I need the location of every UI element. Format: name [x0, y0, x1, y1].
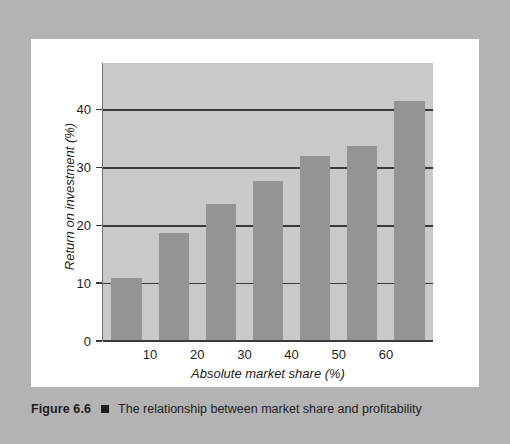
square-bullet-icon — [101, 405, 109, 413]
y-tick-label: 20 — [51, 218, 91, 233]
caption-text: The relationship between market share an… — [118, 402, 422, 416]
bar — [159, 233, 189, 341]
y-tick-mark — [96, 167, 102, 168]
bar — [300, 156, 330, 341]
y-tick-mark — [96, 109, 102, 110]
x-tick-label: 40 — [272, 347, 312, 362]
y-axis-ticks: 010203040 — [31, 39, 103, 349]
figure-number: Figure 6.6 — [31, 402, 91, 416]
x-tick-label: 20 — [177, 347, 217, 362]
bar — [394, 101, 424, 341]
x-tick-label: 60 — [366, 347, 406, 362]
y-tick-mark — [96, 282, 102, 283]
bar — [206, 204, 236, 341]
y-tick-label: 10 — [51, 276, 91, 291]
figure-caption: Figure 6.6 The relationship between mark… — [31, 394, 479, 424]
y-tick-mark — [96, 225, 102, 226]
bar — [111, 278, 141, 341]
x-axis-title: Absolute market share (%) — [103, 366, 433, 381]
figure-canvas: Return on investment (%) 010203040 10203… — [31, 39, 479, 387]
bar — [253, 181, 283, 341]
y-tick-label: 30 — [51, 160, 91, 175]
y-tick-mark — [96, 340, 102, 341]
figure-frame: Return on investment (%) 010203040 10203… — [0, 0, 510, 444]
x-axis-ticks: 102030405060 — [103, 347, 433, 365]
x-tick-label: 30 — [224, 347, 264, 362]
x-tick-label: 50 — [319, 347, 359, 362]
y-tick-label: 40 — [51, 102, 91, 117]
bar-series — [103, 63, 433, 341]
x-axis-line — [103, 340, 433, 342]
x-tick-label: 10 — [130, 347, 170, 362]
plot-area — [103, 63, 433, 341]
y-tick-label: 0 — [51, 334, 91, 349]
bar — [347, 146, 377, 341]
